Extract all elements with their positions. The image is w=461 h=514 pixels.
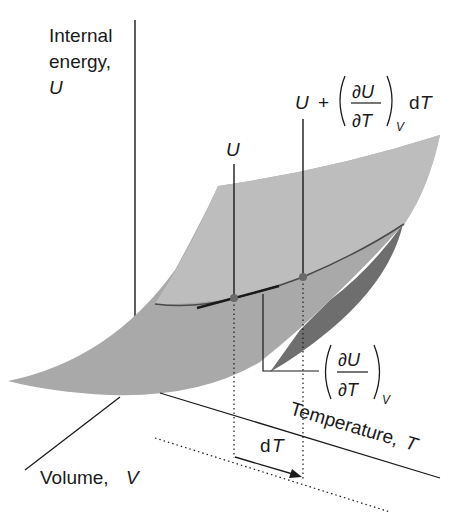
u-plus-t: T bbox=[420, 92, 433, 113]
point-u bbox=[230, 294, 238, 302]
point-u-label: U bbox=[226, 139, 240, 160]
u-plus-prefix: U bbox=[295, 92, 309, 113]
u-axis-label-line1: Internal bbox=[49, 25, 112, 46]
volume-label-symbol: V bbox=[126, 467, 141, 488]
slope-subscript: V bbox=[382, 393, 391, 407]
temperature-label-symbol: T bbox=[403, 432, 421, 456]
slope-right-paren-icon bbox=[374, 345, 380, 399]
slope-expression: ∂U ∂T V bbox=[326, 345, 392, 407]
internal-energy-surface-diagram: Internal energy, U U U + ∂U ∂T V d T ∂U … bbox=[0, 0, 461, 514]
u-plus-numerator: ∂U bbox=[352, 82, 375, 102]
u-plus-subscript: V bbox=[396, 120, 405, 134]
dt-label-t: T bbox=[272, 435, 285, 456]
volume-label-text: Volume, bbox=[40, 467, 109, 488]
left-paren-icon bbox=[340, 76, 345, 126]
u-plus-sign: + bbox=[318, 92, 329, 113]
slope-denominator: ∂T bbox=[338, 380, 360, 400]
u-axis-symbol: U bbox=[49, 77, 63, 98]
dt-arrow-shaft bbox=[235, 457, 296, 475]
u-plus-du-expression: U + ∂U ∂T V d T bbox=[295, 76, 433, 134]
temperature-axis-label: Temperature, T bbox=[288, 398, 421, 456]
slope-left-paren-icon bbox=[326, 345, 332, 399]
point-u-plus-du bbox=[299, 273, 307, 281]
u-axis-label-line2: energy, bbox=[49, 51, 111, 72]
slope-numerator: ∂U bbox=[338, 350, 361, 370]
volume-axis bbox=[25, 397, 120, 470]
u-plus-d: d bbox=[409, 92, 420, 113]
dt-arrow-head bbox=[289, 469, 302, 478]
right-paren-icon bbox=[387, 76, 392, 126]
dt-label-d: d bbox=[260, 435, 271, 456]
u-plus-denominator: ∂T bbox=[352, 111, 374, 131]
